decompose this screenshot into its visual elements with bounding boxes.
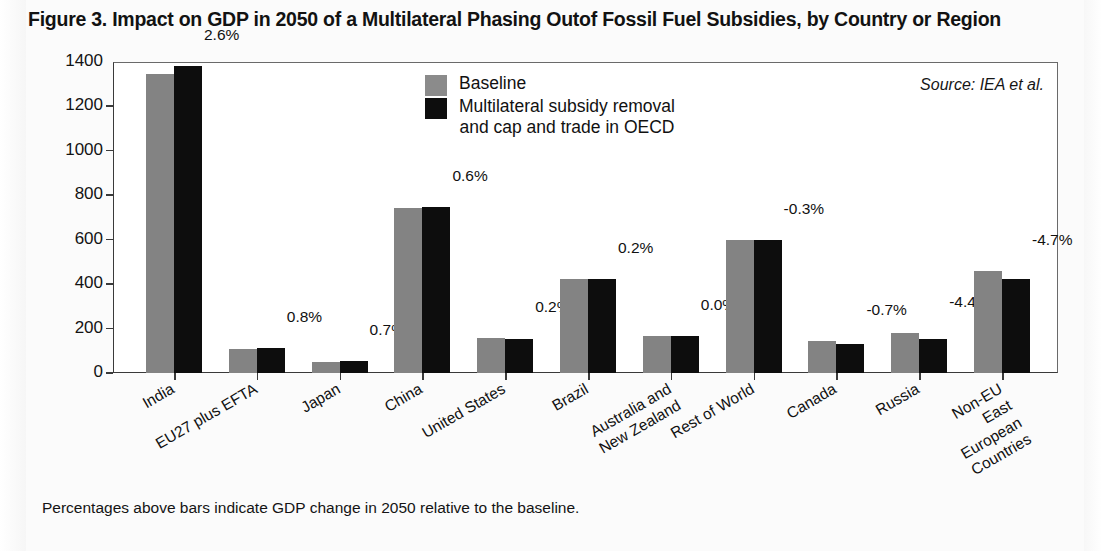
y-tick-mark (106, 283, 113, 285)
bar-group: 2.6% (146, 62, 202, 373)
bar-group: -4.7% (974, 62, 1030, 373)
x-axis-label: Canada (783, 379, 840, 423)
y-tick-mark (106, 150, 113, 152)
y-tick-mark (106, 239, 113, 241)
bar-baseline (146, 74, 174, 373)
bar-policy (754, 240, 782, 373)
x-axis-label: United States (419, 379, 509, 442)
bar-policy (422, 207, 450, 373)
bar-policy (671, 336, 699, 373)
x-axis-label: Russia (872, 379, 923, 419)
bar-baseline (560, 279, 588, 373)
bar-policy (505, 339, 533, 373)
bar-group: 0.7% (312, 62, 368, 373)
x-axis-labels: IndiaEU27 plus EFTAJapanChinaUnited Stat… (113, 379, 1058, 509)
y-tick-label: 1400 (39, 51, 103, 71)
x-axis-label: Non-EU East European Countries (938, 379, 1035, 480)
bar-policy (340, 361, 368, 373)
source-note: Source: IEA et al. (920, 76, 1044, 94)
y-tick-label: 0 (39, 362, 103, 382)
x-axis-label: India (139, 379, 178, 413)
bar-baseline (891, 333, 919, 373)
y-tick-label: 800 (39, 184, 103, 204)
y-tick-label: 600 (39, 229, 103, 249)
bar-baseline (394, 208, 422, 373)
bar-baseline (974, 271, 1002, 373)
bar-baseline (726, 240, 754, 373)
figure-title: Figure 3. Impact on GDP in 2050 of a Mul… (28, 8, 1088, 31)
bar-policy (919, 339, 947, 373)
bar-policy (257, 348, 285, 373)
x-axis-label: China (381, 379, 426, 416)
legend-item-policy: Multilateral subsidy removal and cap and… (425, 96, 755, 139)
y-tick-mark (106, 372, 113, 374)
legend-label-policy: Multilateral subsidy removal and cap and… (459, 96, 675, 139)
bar-group: -0.7% (808, 62, 864, 373)
y-tick-mark (106, 194, 113, 196)
bar-policy (1002, 279, 1030, 373)
legend-label-baseline: Baseline (459, 73, 526, 94)
bar-policy (174, 66, 202, 373)
y-tick-mark (106, 328, 113, 330)
x-axis-label: Australia and New Zealand (586, 379, 684, 458)
legend-swatch-policy-icon (425, 98, 447, 119)
y-tick-label: 200 (39, 318, 103, 338)
bar-baseline (808, 341, 836, 373)
bar-baseline (229, 349, 257, 373)
bar-value-label: 2.6% (204, 26, 239, 46)
bar-policy (836, 344, 864, 373)
y-tick-label: 400 (39, 273, 103, 293)
bar-baseline (643, 336, 671, 373)
chart-legend: Baseline Multilateral subsidy removal an… (425, 73, 755, 139)
y-tick-label: 1200 (39, 95, 103, 115)
x-axis-label: Japan (297, 379, 343, 417)
legend-swatch-baseline-icon (425, 75, 447, 96)
figure-page: Figure 3. Impact on GDP in 2050 of a Mul… (0, 0, 1102, 551)
y-tick-label: 1000 (39, 140, 103, 160)
bar-group: 0.8% (229, 62, 285, 373)
figure-footnote: Percentages above bars indicate GDP chan… (42, 499, 579, 517)
x-axis-label: Brazil (548, 379, 591, 415)
bar-baseline (477, 338, 505, 373)
legend-item-baseline: Baseline (425, 73, 755, 96)
bar-value-label: -4.7% (1032, 231, 1073, 251)
bar-baseline (312, 362, 340, 373)
bar-policy (588, 279, 616, 373)
bar-group: -4.4% (891, 62, 947, 373)
y-tick-mark (106, 105, 113, 107)
